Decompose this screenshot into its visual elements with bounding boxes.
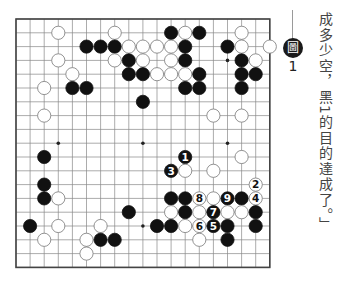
black-stone xyxy=(80,81,93,94)
black-stone xyxy=(94,40,107,53)
black-stone xyxy=(66,81,79,94)
move-number: 9 xyxy=(224,192,231,204)
black-stone xyxy=(221,40,234,53)
star-point xyxy=(57,141,61,145)
black-stone xyxy=(150,219,163,232)
white-stone: 6 xyxy=(193,219,206,232)
white-stone xyxy=(179,68,192,81)
white-stone xyxy=(207,192,220,205)
move-number: 2 xyxy=(252,178,259,190)
white-stone xyxy=(136,54,149,67)
white-stone xyxy=(80,247,93,260)
white-stone xyxy=(122,40,135,53)
white-stone xyxy=(66,68,79,81)
white-stone xyxy=(52,219,65,232)
white-stone: 4 xyxy=(249,192,262,205)
white-stone xyxy=(235,26,248,39)
white-stone xyxy=(108,26,121,39)
black-stone xyxy=(122,68,135,81)
black-stone xyxy=(249,68,262,81)
black-stone xyxy=(24,219,37,232)
black-stone: 3 xyxy=(165,164,178,177)
black-stone xyxy=(193,26,206,39)
black-stone: 7 xyxy=(207,206,220,219)
white-stone xyxy=(193,206,206,219)
white-stone xyxy=(38,109,51,122)
white-stone xyxy=(193,233,206,246)
white-stone xyxy=(38,81,51,94)
black-stone xyxy=(80,40,93,53)
black-stone xyxy=(136,68,149,81)
white-stone xyxy=(38,233,51,246)
black-stone xyxy=(193,81,206,94)
black-stone xyxy=(165,192,178,205)
black-stone xyxy=(221,233,234,246)
move-number: 5 xyxy=(210,220,217,232)
black-stone xyxy=(136,95,149,108)
white-stone xyxy=(52,54,65,67)
commentary-text: 成多少空，黑1的目的達成了。」 xyxy=(316,12,334,232)
black-stone xyxy=(179,54,192,67)
black-stone xyxy=(235,192,248,205)
white-stone: 8 xyxy=(193,192,206,205)
white-stone xyxy=(150,40,163,53)
white-stone xyxy=(263,40,276,53)
white-stone xyxy=(150,68,163,81)
black-stone xyxy=(221,219,234,232)
move-number: 3 xyxy=(167,165,174,177)
black-stone xyxy=(122,206,135,219)
move-number: 1 xyxy=(182,151,189,163)
white-stone xyxy=(179,164,192,177)
white-stone xyxy=(165,206,178,219)
black-stone xyxy=(249,219,262,232)
white-stone xyxy=(52,26,65,39)
white-stone xyxy=(249,54,262,67)
white-stone xyxy=(165,54,178,67)
black-stone xyxy=(38,192,51,205)
black-stone xyxy=(94,233,107,246)
black-stone: 9 xyxy=(221,192,234,205)
white-stone xyxy=(80,233,93,246)
black-stone xyxy=(179,81,192,94)
black-stone xyxy=(179,40,192,53)
star-point xyxy=(226,141,230,145)
black-stone xyxy=(108,233,121,246)
white-stone xyxy=(235,150,248,163)
black-stone xyxy=(38,178,51,191)
black-stone xyxy=(179,192,192,205)
white-stone xyxy=(94,219,107,232)
black-stone xyxy=(165,219,178,232)
white-stone xyxy=(136,40,149,53)
black-stone xyxy=(235,54,248,67)
move-number: 7 xyxy=(210,206,217,218)
black-stone: 5 xyxy=(207,219,220,232)
white-stone xyxy=(221,206,234,219)
white-stone xyxy=(235,206,248,219)
black-stone xyxy=(122,54,135,67)
white-stone xyxy=(165,68,178,81)
white-stone xyxy=(179,26,192,39)
go-board: 132894765 xyxy=(0,0,280,286)
white-stone xyxy=(108,54,121,67)
white-stone xyxy=(179,219,192,232)
star-point xyxy=(141,141,145,145)
star-point xyxy=(141,224,145,228)
white-stone xyxy=(235,109,248,122)
black-stone xyxy=(179,206,192,219)
black-stone: 1 xyxy=(179,150,192,163)
black-stone xyxy=(235,68,248,81)
figure-badge-icon: 圖 xyxy=(283,38,303,58)
white-stone xyxy=(52,192,65,205)
caption-leader-line xyxy=(292,10,293,39)
black-stone xyxy=(38,150,51,163)
black-stone xyxy=(249,206,262,219)
white-stone xyxy=(207,109,220,122)
black-stone xyxy=(235,81,248,94)
white-stone xyxy=(235,40,248,53)
white-stone: 2 xyxy=(249,178,262,191)
move-number: 6 xyxy=(196,220,203,232)
white-stone xyxy=(207,164,220,177)
black-stone xyxy=(193,68,206,81)
black-stone xyxy=(108,40,121,53)
figure-number: 1 xyxy=(283,58,303,74)
